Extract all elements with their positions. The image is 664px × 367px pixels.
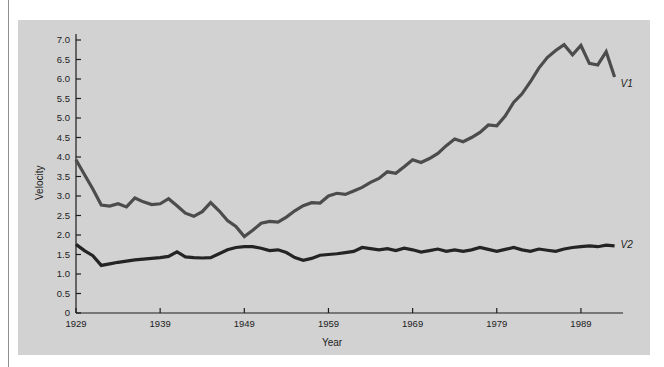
series-line-v1	[76, 45, 615, 237]
y-tick-label: 2.5	[34, 211, 70, 221]
x-tick-label: 1989	[556, 319, 606, 329]
x-axis-title: Year	[0, 338, 664, 348]
y-tick-label: 5.5	[34, 94, 70, 104]
x-tick-label: 1949	[219, 319, 269, 329]
y-tick-label: 6.0	[34, 74, 70, 84]
series-label-v2: V2	[621, 240, 633, 250]
series-label-v1: V1	[621, 79, 633, 89]
y-tick-label: 0	[34, 308, 70, 318]
series-line-v2	[76, 244, 615, 265]
y-tick-label: 4.5	[34, 133, 70, 143]
y-tick-label: 0.5	[34, 289, 70, 299]
y-tick-label: 3.5	[34, 172, 70, 182]
x-tick-label: 1929	[51, 319, 101, 329]
y-tick-label: 7.0	[34, 35, 70, 45]
y-tick-label: 4.0	[34, 152, 70, 162]
y-tick-label: 1.0	[34, 269, 70, 279]
axis-layer	[76, 34, 623, 313]
y-tick-label: 2.0	[34, 230, 70, 240]
series-layer	[76, 45, 615, 266]
x-tick-label: 1969	[388, 319, 438, 329]
y-tick-label: 3.0	[34, 191, 70, 201]
line-chart	[0, 0, 664, 367]
y-tick-label: 1.5	[34, 250, 70, 260]
x-tick-label: 1939	[135, 319, 185, 329]
x-tick-label: 1959	[303, 319, 353, 329]
y-tick-label: 5.0	[34, 113, 70, 123]
figure-root: Velocity Year 00.51.01.52.02.53.03.54.04…	[0, 0, 664, 367]
x-tick-label: 1979	[472, 319, 522, 329]
y-tick-label: 6.5	[34, 55, 70, 65]
